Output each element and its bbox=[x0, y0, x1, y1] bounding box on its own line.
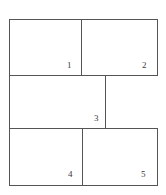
rectangle-dissection-figure: 12345 bbox=[0, 0, 166, 195]
cell-label-2: 2 bbox=[142, 61, 147, 70]
figure-line-art bbox=[0, 0, 166, 195]
cell-label-1: 1 bbox=[67, 61, 72, 70]
cell-label-3: 3 bbox=[94, 114, 99, 123]
cell-label-4: 4 bbox=[68, 170, 73, 179]
cell-label-5: 5 bbox=[141, 170, 146, 179]
